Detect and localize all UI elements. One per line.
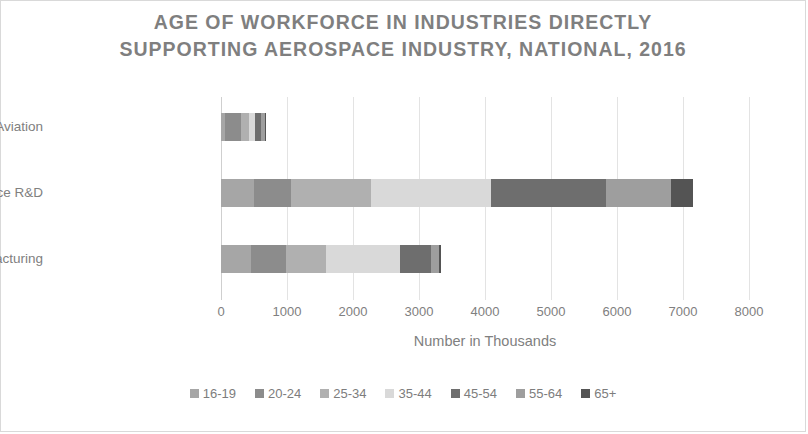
bar-segment: [251, 245, 286, 273]
legend-label: 45-54: [464, 386, 497, 401]
legend-item[interactable]: 20-24: [255, 386, 301, 401]
legend-label: 20-24: [268, 386, 301, 401]
bar-row: [221, 179, 693, 207]
legend-label: 55-64: [529, 386, 562, 401]
chart-container: AGE OF WORKFORCE IN INDUSTRIES DIRECTLY …: [0, 0, 806, 432]
bar-segment: [326, 245, 400, 273]
bar-segment: [371, 179, 491, 207]
legend-item[interactable]: 16-19: [190, 386, 236, 401]
legend-label: 65+: [594, 386, 616, 401]
x-axis-tick-label: 7000: [669, 304, 698, 319]
bar-row: [221, 113, 266, 141]
legend-swatch-icon: [516, 389, 525, 398]
category-label: Aviation: [0, 119, 43, 134]
bar-segment: [431, 245, 439, 273]
bar-segment: [254, 179, 291, 207]
x-axis-tick-labels: 010002000300040005000600070008000: [221, 304, 749, 324]
category-label: Aerospace Manufacturing: [0, 251, 43, 266]
bar-segment: [265, 113, 266, 141]
legend-swatch-icon: [581, 389, 590, 398]
gridline: [749, 97, 750, 300]
legend-swatch-icon: [255, 389, 264, 398]
legend-item[interactable]: 35-44: [385, 386, 431, 401]
legend-label: 35-44: [398, 386, 431, 401]
legend-swatch-icon: [385, 389, 394, 398]
bar-segment: [400, 245, 432, 273]
x-axis-tick-label: 8000: [735, 304, 764, 319]
bar-segment: [241, 113, 249, 141]
bar-segment: [671, 179, 693, 207]
bar-segment: [491, 179, 606, 207]
x-axis-tick-label: 3000: [405, 304, 434, 319]
bar-row: [221, 245, 441, 273]
bar-segment: [225, 113, 241, 141]
x-axis-tick-label: 5000: [537, 304, 566, 319]
category-label: Aerospace R&D: [0, 185, 43, 200]
legend-item[interactable]: 45-54: [451, 386, 497, 401]
bar-segment: [221, 179, 254, 207]
chart-legend: 16-1920-2425-3435-4445-5455-6465+: [1, 386, 805, 401]
bar-segment: [291, 179, 371, 207]
legend-swatch-icon: [451, 389, 460, 398]
legend-label: 16-19: [203, 386, 236, 401]
bar-segment: [439, 245, 440, 273]
legend-swatch-icon: [190, 389, 199, 398]
chart-title-line-2: SUPPORTING AEROSPACE INDUSTRY, NATIONAL,…: [1, 36, 805, 63]
x-axis-tick-label: 4000: [471, 304, 500, 319]
x-axis-title: Number in Thousands: [221, 333, 749, 349]
x-axis-tick-label: 2000: [339, 304, 368, 319]
legend-label: 25-34: [333, 386, 366, 401]
bar-segment: [606, 179, 671, 207]
legend-swatch-icon: [320, 389, 329, 398]
legend-item[interactable]: 65+: [581, 386, 616, 401]
plot-area: [221, 97, 749, 300]
bar-segment: [221, 245, 251, 273]
chart-title: AGE OF WORKFORCE IN INDUSTRIES DIRECTLY …: [1, 9, 805, 63]
x-axis-tick-label: 6000: [603, 304, 632, 319]
bar-segment: [286, 245, 326, 273]
legend-item[interactable]: 55-64: [516, 386, 562, 401]
x-axis-tick-label: 1000: [273, 304, 302, 319]
chart-title-line-1: AGE OF WORKFORCE IN INDUSTRIES DIRECTLY: [1, 9, 805, 36]
legend-item[interactable]: 25-34: [320, 386, 366, 401]
x-axis-tick-label: 0: [217, 304, 224, 319]
